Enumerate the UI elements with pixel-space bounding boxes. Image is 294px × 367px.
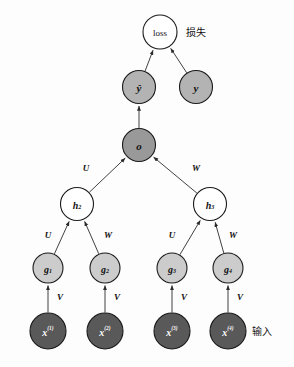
node-yhat[interactable]: ŷ [123, 71, 156, 104]
node-x2[interactable]: x(2) [87, 313, 123, 349]
node-y[interactable]: y [180, 71, 213, 104]
node-label-y: y [192, 82, 199, 94]
side-label-loss-cn: 损失 [186, 26, 206, 38]
node-g4[interactable]: g4 [213, 253, 243, 283]
edge-label-g1-h2: U [45, 230, 52, 240]
edge-h2-o [89, 158, 125, 192]
edge-g3-h3 [180, 220, 200, 254]
node-x1[interactable]: x(1) [30, 313, 66, 349]
node-h3[interactable]: h3 [194, 188, 227, 221]
edge-g1-h2 [54, 221, 69, 254]
node-label-loss: loss [153, 28, 168, 38]
computation-graph: lossŷyoh2h3g1g2g3g4x(1)x(2)x(3)x(4) UWUW… [0, 0, 294, 367]
edge-label-x3-g3: V [181, 292, 188, 302]
node-g3[interactable]: g3 [157, 253, 187, 283]
edge-label-g3-h3: U [169, 230, 176, 240]
edge-label-g4-h3: W [229, 230, 238, 240]
node-label-yhat: ŷ [135, 82, 142, 94]
edge-g2-h2 [85, 221, 99, 253]
edge-yhat-loss [145, 50, 153, 71]
edge-h3-o [154, 157, 197, 193]
edge-label-x1-g1: V [57, 292, 64, 302]
edge-labels-layer: UWUWUWVVVV [45, 163, 244, 302]
node-x4[interactable]: x(4) [210, 313, 246, 349]
side-label-input-cn: 输入 [252, 325, 272, 337]
edge-label-x4-g4: V [237, 292, 244, 302]
edge-g4-h3 [215, 222, 224, 253]
edge-y-loss [171, 48, 187, 72]
edge-label-x2-g2: V [114, 292, 121, 302]
node-label-o: o [136, 140, 142, 152]
edge-label-g2-h2: W [104, 230, 113, 240]
node-h2[interactable]: h2 [61, 188, 94, 221]
node-x3[interactable]: x(3) [154, 313, 190, 349]
node-loss[interactable]: loss [143, 15, 177, 49]
diagram-canvas: lossŷyoh2h3g1g2g3g4x(1)x(2)x(3)x(4) UWUW… [0, 0, 294, 367]
node-g2[interactable]: g2 [90, 253, 120, 283]
node-g1[interactable]: g1 [33, 253, 63, 283]
node-o[interactable]: o [123, 129, 156, 162]
edge-label-h2-o: U [83, 163, 90, 173]
edge-label-h3-o: W [192, 163, 201, 173]
